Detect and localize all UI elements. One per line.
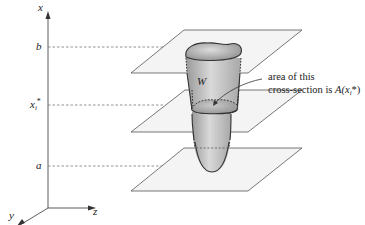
x-axis-arrow-icon [46, 11, 51, 19]
solid-mid-lower [192, 112, 231, 146]
annotation-line-1: area of this [268, 71, 315, 82]
z-axis-label: z [92, 205, 98, 217]
level-xi-star-label: xi* [29, 97, 41, 112]
diagram-canvas: x z y b xi* a [0, 0, 365, 225]
x-axis-label: x [37, 1, 43, 13]
level-b-label: b [36, 40, 42, 52]
coordinate-axes [17, 11, 96, 225]
solid-cross-section-figure: x z y b xi* a [0, 0, 365, 225]
y-axis-label: y [8, 209, 14, 221]
solid-label: W [197, 75, 207, 87]
level-a-label: a [36, 159, 42, 171]
y-axis-arrow-icon [17, 219, 25, 225]
solid-top-cap [186, 43, 242, 61]
